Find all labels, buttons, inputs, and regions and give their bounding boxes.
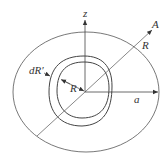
inner-region-boundary [57,62,109,118]
shell-outer-boundary [49,56,112,126]
z-axis-label: z [82,7,88,19]
shell-thickness-arrow [44,73,50,76]
shell-thickness-label: dR′ [29,64,44,76]
inner-R-label: R [69,82,77,94]
outer-R-label: R [141,39,149,51]
point-A-label: A [151,18,159,30]
radius-a-label: a [134,93,140,105]
diagonal-line [37,92,85,136]
inner-radius-arrow-back [61,80,70,85]
diagram-figure: z A R a dR′ R [0,0,167,168]
